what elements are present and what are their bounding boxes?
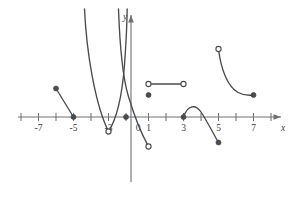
piece-horizontal-segment bbox=[146, 81, 186, 86]
descending-branch-open-dot bbox=[146, 144, 151, 149]
arch-path bbox=[184, 107, 219, 143]
tick-label-plus1: 1 bbox=[146, 123, 151, 133]
left-segment-end-closed-dot bbox=[71, 115, 76, 120]
tick-label-minus7: -7 bbox=[35, 123, 43, 133]
isolated-closed-dot bbox=[146, 93, 151, 98]
x-axis-arrowhead bbox=[274, 114, 282, 120]
x-axis-label: x bbox=[280, 123, 286, 133]
piece-arch bbox=[181, 107, 221, 145]
tick-label-plus5: 5 bbox=[216, 123, 221, 133]
arch-start-closed-dot bbox=[181, 115, 186, 120]
left-segment-line bbox=[56, 89, 74, 118]
tick-label-minus5: -5 bbox=[70, 123, 78, 133]
tick-label-plus3: 3 bbox=[181, 123, 186, 133]
u-branch-left-arm bbox=[85, 9, 109, 132]
horizontal-segment-right-open-dot bbox=[181, 81, 186, 86]
u-branch-right-arm bbox=[109, 9, 128, 132]
graph-canvas: -7 -5 -3 0 1 3 5 7 x y bbox=[0, 0, 300, 198]
piece-right-decreasing-curve bbox=[216, 46, 256, 97]
piecewise-function-graph: -7 -5 -3 0 1 3 5 7 x y bbox=[0, 0, 300, 198]
right-curve-path bbox=[219, 49, 254, 95]
horizontal-segment-left-open-dot bbox=[146, 81, 151, 86]
arch-end-closed-dot bbox=[216, 140, 221, 145]
right-curve-closed-dot bbox=[251, 93, 256, 98]
piece-isolated-point bbox=[146, 93, 151, 98]
tick-label-plus7: 7 bbox=[251, 123, 256, 133]
left-segment-start-closed-dot bbox=[54, 86, 59, 91]
y-axis-arrowhead bbox=[128, 15, 134, 23]
piece-left-segment bbox=[54, 86, 77, 120]
x-axis-tick-labels: -7 -5 -3 0 1 3 5 7 bbox=[35, 123, 257, 133]
axes-group bbox=[18, 15, 281, 182]
u-branch-closed-dot-at-minus2 bbox=[124, 115, 129, 120]
right-curve-open-dot bbox=[216, 46, 221, 51]
u-branch-vertex-open-dot bbox=[106, 129, 111, 134]
